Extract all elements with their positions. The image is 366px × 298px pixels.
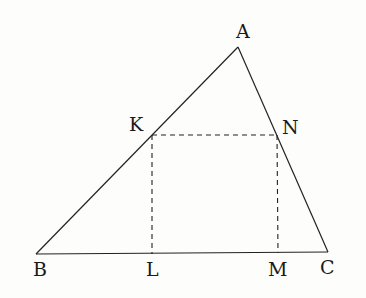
label-m: M (268, 258, 287, 280)
label-c: C (320, 256, 335, 278)
side-bc (36, 252, 328, 254)
label-n: N (282, 116, 299, 138)
segment-nm (277, 135, 278, 253)
side-ab (36, 47, 238, 254)
side-ac (238, 47, 328, 252)
label-a: A (235, 20, 250, 42)
triangle-diagram: A K N B L M C (0, 0, 366, 298)
label-b: B (33, 258, 47, 280)
label-k: K (129, 113, 144, 135)
label-l: L (146, 258, 159, 280)
